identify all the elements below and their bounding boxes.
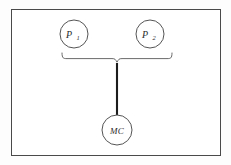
node-p2-circle (136, 20, 164, 48)
aggregation-brace-icon (62, 53, 172, 62)
node-p2-label: P (141, 29, 148, 40)
node-p1: P 1 (60, 20, 88, 48)
node-p1-label: P (65, 29, 72, 40)
diagram-canvas: P 1 P 2 MC (0, 0, 231, 165)
node-mc-label: MC (109, 126, 125, 136)
node-p1-circle (60, 20, 88, 48)
node-p2: P 2 (136, 20, 164, 48)
figure-root: P 1 P 2 MC (0, 0, 231, 165)
node-p1-subscript: 1 (76, 34, 79, 41)
node-mc: MC (102, 115, 132, 145)
